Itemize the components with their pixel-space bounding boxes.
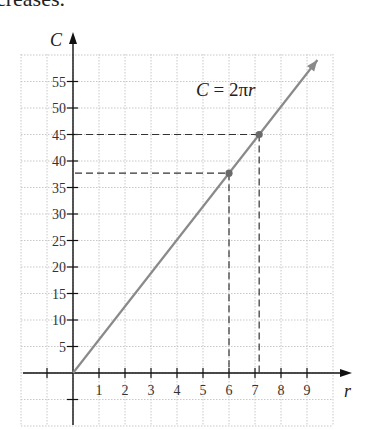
- x-axis-arrow-icon: [340, 369, 352, 377]
- y-tick-label: 40: [52, 154, 66, 169]
- x-tick-label: 2: [122, 383, 129, 398]
- x-tick-label: 5: [200, 383, 207, 398]
- y-tick-label: 20: [52, 260, 66, 275]
- y-tick-label: 45: [52, 128, 66, 143]
- x-tick-label: 9: [304, 383, 311, 398]
- chart: 123456789510152025303540455055 r C C = 2…: [0, 0, 366, 430]
- x-tick-label: 3: [148, 383, 155, 398]
- x-tick-label: 6: [226, 383, 233, 398]
- y-tick-label: 30: [52, 207, 66, 222]
- y-tick-label: 50: [52, 101, 66, 116]
- equation-label: C = 2πr: [196, 79, 256, 100]
- y-tick-label: 5: [59, 340, 66, 355]
- y-tick-label: 55: [52, 75, 66, 90]
- x-tick-label: 8: [278, 383, 285, 398]
- equation-part: C: [196, 79, 209, 100]
- equation-part: = 2π: [209, 79, 249, 100]
- x-tick-label: 7: [252, 383, 259, 398]
- y-axis-arrow-icon: [69, 32, 77, 44]
- data-point: [256, 131, 263, 138]
- y-tick-label: 25: [52, 234, 66, 249]
- y-tick-label: 10: [52, 313, 66, 328]
- x-axis-label: r: [344, 381, 352, 401]
- y-tick-label: 15: [52, 287, 66, 302]
- x-tick-label: 4: [174, 383, 181, 398]
- x-tick-label: 1: [96, 383, 103, 398]
- y-tick-label: 35: [52, 181, 66, 196]
- axes: [23, 32, 352, 425]
- equation-part: r: [248, 79, 256, 100]
- y-axis-label: C: [50, 30, 63, 50]
- data-point: [225, 170, 232, 177]
